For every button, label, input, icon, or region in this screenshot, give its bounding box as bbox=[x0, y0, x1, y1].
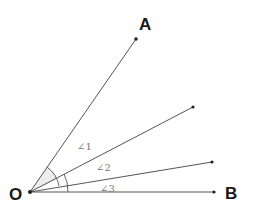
label-A: A bbox=[139, 15, 151, 34]
point-B bbox=[212, 190, 215, 193]
point-P3 bbox=[210, 160, 213, 163]
angle-label-2: ∠2 bbox=[96, 162, 111, 173]
ray-OP2 bbox=[30, 107, 193, 192]
label-B: B bbox=[225, 184, 237, 203]
label-O: O bbox=[9, 185, 22, 204]
angle-label-1: ∠1 bbox=[77, 141, 92, 152]
angle-label-3: ∠3 bbox=[100, 183, 115, 194]
point-P2 bbox=[191, 105, 194, 108]
ray-OP3 bbox=[30, 162, 212, 192]
angle-diagram: A O B ∠1 ∠2 ∠3 bbox=[0, 0, 255, 217]
ray-OA bbox=[30, 39, 136, 192]
point-O bbox=[28, 190, 32, 194]
point-A bbox=[134, 37, 138, 41]
arc-angle-2-3 bbox=[64, 174, 68, 192]
